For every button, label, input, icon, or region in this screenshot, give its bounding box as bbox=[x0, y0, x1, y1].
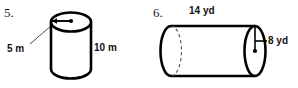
radius-label-5: 5 m bbox=[7, 44, 24, 54]
radius-label-6: 8 yd bbox=[268, 36, 288, 46]
cylinder-bottom-visible-arc bbox=[51, 69, 91, 79]
height-label-5: 10 m bbox=[94, 43, 117, 53]
center-dot-6 bbox=[253, 49, 257, 53]
worksheet-canvas: 5. 5 m 10 m 6. bbox=[0, 0, 298, 88]
problem-6: 6. 14 yd 8 yd bbox=[149, 0, 298, 88]
cylinder-left-hidden-arc bbox=[171, 26, 182, 76]
problem-5: 5. 5 m 10 m bbox=[0, 0, 149, 88]
center-dot-5 bbox=[69, 19, 73, 23]
cylinder-left-visible-arc bbox=[161, 26, 172, 76]
length-label-6: 14 yd bbox=[189, 6, 215, 16]
radius-leader-line-5 bbox=[30, 25, 52, 44]
